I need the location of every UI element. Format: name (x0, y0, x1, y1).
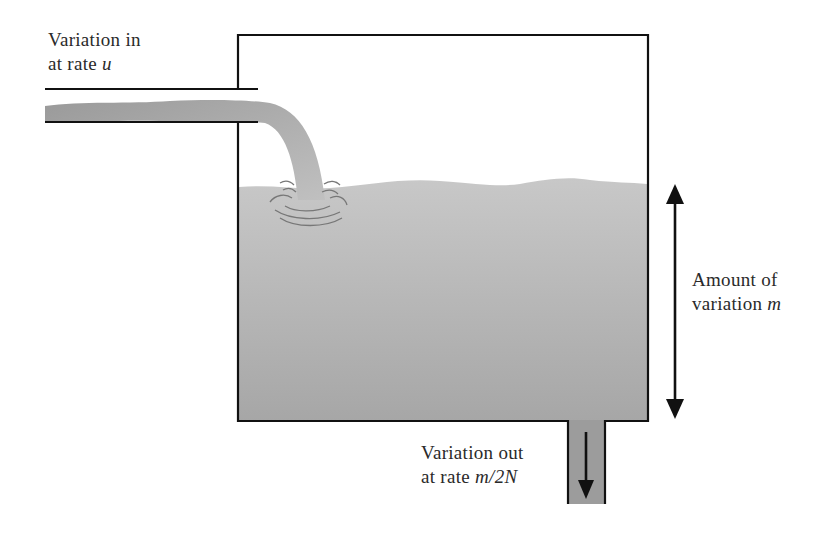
amount-label-line1: Amount of (692, 268, 781, 292)
outflow-variable: m/2N (475, 466, 517, 487)
inflow-stream (45, 100, 325, 200)
inflow-label-line1: Variation in (48, 28, 141, 52)
outflow-label-line1: Variation out (421, 441, 524, 465)
amount-label: Amount of variation m (692, 268, 781, 316)
amount-variable: m (767, 293, 781, 314)
outflow-label-line2: at rate m/2N (421, 465, 524, 489)
amount-label-line2: variation m (692, 292, 781, 316)
inflow-variable: u (102, 53, 112, 74)
inflow-label-line2: at rate u (48, 52, 141, 76)
inflow-label: Variation in at rate u (48, 28, 141, 76)
double-arrow-icon (666, 184, 684, 419)
outflow-label: Variation out at rate m/2N (421, 441, 524, 489)
